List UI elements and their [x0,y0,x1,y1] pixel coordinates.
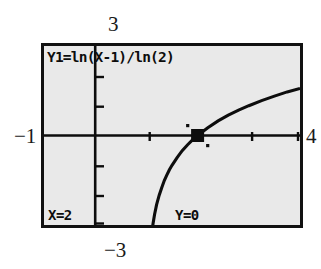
window-ymin-label: −3 [104,240,126,261]
trace-x-readout: X=2 [48,208,72,222]
function-curve [150,88,301,225]
window-ymax-label: 3 [108,14,119,35]
graph-svg [44,46,300,225]
window-xmin-label: −1 [14,126,36,147]
trace-y-readout: Y=0 [175,208,199,222]
calculator-lcd-frame[interactable]: Y1=ln(X-1)/ln(2) X=2 Y=0 [41,43,303,228]
graph-plot-area[interactable]: Y1=ln(X-1)/ln(2) X=2 Y=0 [44,46,300,225]
equation-label: Y1=ln(X-1)/ln(2) [47,50,174,64]
window-xmax-label: 4 [306,126,317,147]
calculator-screenshot: 3 −3 −1 4 [0,0,321,269]
